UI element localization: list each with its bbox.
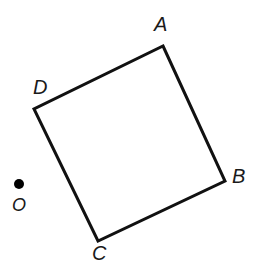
vertex-label-b: B [232,166,245,186]
vertex-label-d: D [33,77,47,97]
point-label-o: O [12,196,26,214]
geometry-figure-svg [0,0,264,265]
point-o-dot [14,179,24,189]
geometry-figure-canvas: A B C D O [0,0,264,265]
vertex-label-c: C [92,243,106,263]
square-abcd-shape [34,46,225,241]
vertex-label-a: A [154,14,167,34]
